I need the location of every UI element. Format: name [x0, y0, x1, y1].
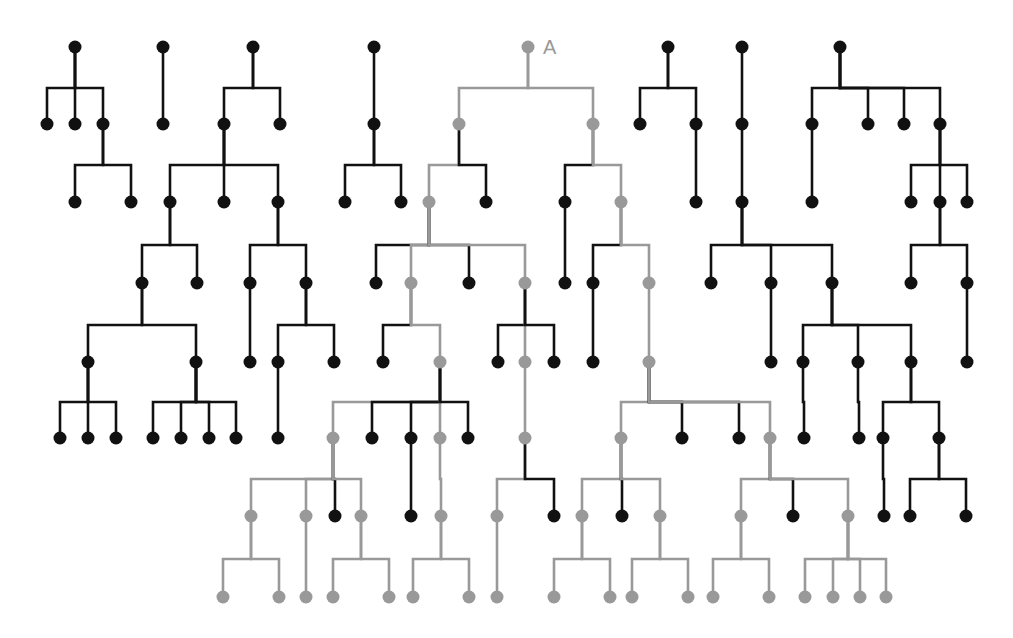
- tree-node-t5b1: [690, 196, 703, 209]
- tree-node-A2: [587, 118, 600, 131]
- tree-node-A1a4a: [492, 356, 505, 369]
- tree-node-A2a1: [559, 277, 572, 290]
- tree-node-l1: [54, 432, 67, 445]
- tree-node-C2: [676, 432, 689, 445]
- tree-node-A2b1a: [587, 356, 600, 369]
- tree-node-t3: [247, 41, 260, 54]
- tree-node-t6d3: [905, 356, 918, 369]
- tree-node-l5: [175, 432, 188, 445]
- tree-node-t7a: [806, 118, 819, 131]
- tree-node-t7b: [862, 118, 875, 131]
- tree-node-t5b: [690, 118, 703, 131]
- tree-node-A1a3: [463, 277, 476, 290]
- tree-node-t6d1a: [798, 432, 811, 445]
- tree-node-t3a3a: [244, 277, 257, 290]
- tree-node-A1b: [480, 196, 493, 209]
- tree-node-E11: [626, 591, 639, 604]
- tree-node-A1a2a: [377, 356, 390, 369]
- tree-node-B3: [405, 432, 418, 445]
- tree-node-t7: [834, 41, 847, 54]
- tree-node-A1a4: [519, 277, 532, 290]
- tree-node-t3x2: [190, 356, 203, 369]
- tree-node-A1a2: [405, 277, 418, 290]
- tree-node-E5: [383, 591, 396, 604]
- tree-node-t3a1: [164, 196, 177, 209]
- tree-edge: [803, 362, 804, 438]
- tree-node-A: [522, 41, 535, 54]
- tree-node-t7e1: [905, 277, 918, 290]
- tree-node-t4a: [368, 118, 381, 131]
- background: [0, 0, 1013, 638]
- tree-node-t6d1: [797, 356, 810, 369]
- tree-node-A1a1: [370, 277, 383, 290]
- tree-node-B5: [462, 432, 475, 445]
- tree-node-t6f2: [960, 510, 973, 523]
- tree-node-E6: [407, 591, 420, 604]
- tree-node-t3a2: [218, 196, 231, 209]
- tree-node-t6e1: [877, 432, 890, 445]
- tree-node-D5: [405, 510, 418, 523]
- tree-edge: [883, 438, 884, 516]
- tree-edge: [440, 438, 441, 516]
- tree-node-A1a: [423, 196, 436, 209]
- tree-node-t6d2: [852, 356, 865, 369]
- tree-node-l8: [272, 432, 285, 445]
- tree-node-t6c1: [705, 277, 718, 290]
- tree-node-C1: [615, 432, 628, 445]
- tree-node-B1: [327, 432, 340, 445]
- tree-node-t7e2: [961, 277, 974, 290]
- tree-edge: [858, 362, 859, 438]
- tree-node-D4: [355, 510, 368, 523]
- tree-node-D11: [654, 510, 667, 523]
- tree-node-t7e2a: [961, 356, 974, 369]
- tree-node-A2b: [615, 196, 628, 209]
- tree-node-t6e2: [933, 432, 946, 445]
- tree-node-t3b: [274, 118, 287, 131]
- tree-node-A1a2b: [434, 356, 447, 369]
- tree-node-t3a1b: [191, 277, 204, 290]
- tree-node-t1c: [97, 118, 110, 131]
- tree-node-E13: [707, 591, 720, 604]
- tree-node-t6c3: [826, 277, 839, 290]
- tree-node-l6: [203, 432, 216, 445]
- tree-node-t7d1: [905, 196, 918, 209]
- tree-node-C4: [764, 432, 777, 445]
- tree-node-t2: [157, 41, 170, 54]
- tree-node-E14: [763, 591, 776, 604]
- tree-node-E15: [799, 591, 812, 604]
- tree-node-E9: [548, 591, 561, 604]
- tree-node-D12: [735, 510, 748, 523]
- tree-node-E17: [854, 591, 867, 604]
- tree-node-l2: [82, 432, 95, 445]
- tree-node-E2: [273, 591, 286, 604]
- node-label-a: A: [543, 36, 557, 58]
- tree-node-E8: [491, 591, 504, 604]
- tree-node-D13: [787, 510, 800, 523]
- tree-node-D8: [548, 510, 561, 523]
- tree-node-t5a: [634, 118, 647, 131]
- tree-node-E12: [682, 591, 695, 604]
- tree-node-t7a1: [806, 196, 819, 209]
- tree-node-D6: [435, 510, 448, 523]
- tree-node-t3x1: [82, 356, 95, 369]
- tree-node-D1: [245, 510, 258, 523]
- tree-node-t3a3: [272, 196, 285, 209]
- tree-node-t3a3b1: [272, 356, 285, 369]
- tree-node-t3a1a: [136, 277, 149, 290]
- tree-node-E18: [880, 591, 893, 604]
- tree-node-t4: [368, 41, 381, 54]
- tree-node-E10: [604, 591, 617, 604]
- tree-node-D3: [329, 510, 342, 523]
- tree-node-B6: [519, 432, 532, 445]
- tree-node-t6e1a: [878, 510, 891, 523]
- tree-node-l4: [147, 432, 160, 445]
- tree-node-t6d2a: [853, 432, 866, 445]
- tree-node-E4: [327, 591, 340, 604]
- tree-node-t5: [662, 41, 675, 54]
- tree-node-A1a4c: [548, 356, 561, 369]
- tree-node-t3a3b2: [328, 356, 341, 369]
- tree-node-t6f1: [904, 510, 917, 523]
- tree-node-C3: [733, 432, 746, 445]
- tree-node-t7c: [898, 118, 911, 131]
- tree-node-t6: [736, 41, 749, 54]
